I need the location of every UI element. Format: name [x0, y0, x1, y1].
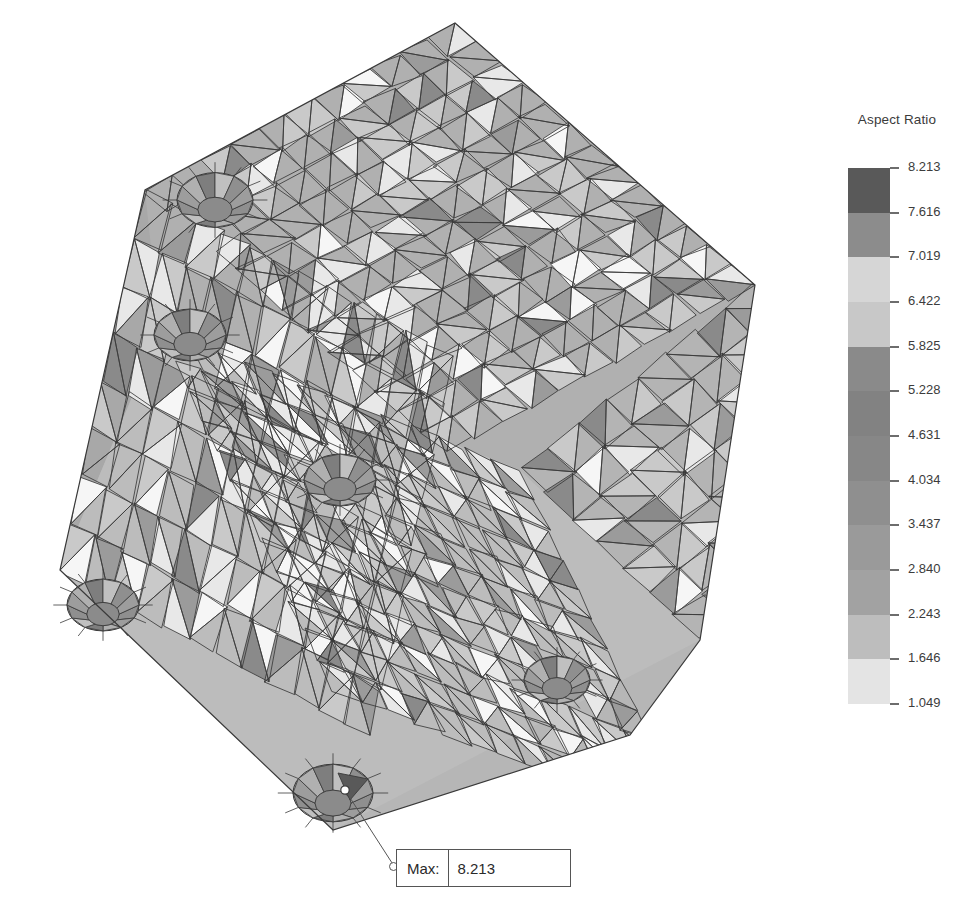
legend-tick-label: 1.646: [908, 650, 941, 665]
mesh-element: [607, 751, 649, 789]
tick-mark-icon: [890, 212, 899, 214]
mesh-element: [775, 333, 807, 379]
mesh-element: [636, 761, 664, 786]
model-viewport[interactable]: [0, 0, 820, 923]
hole-inner-rim: [542, 678, 572, 699]
legend-band-6: [848, 436, 890, 481]
tick-mark-icon: [890, 256, 899, 258]
mesh-element: [569, 758, 612, 798]
mesh-element: [624, 777, 664, 818]
mesh-element: [796, 454, 820, 476]
tick-mark-icon: [890, 658, 899, 660]
mesh-element: [751, 310, 782, 359]
tick-mark-icon: [890, 614, 899, 616]
legend-tick-label: 4.631: [908, 427, 941, 442]
mesh-element: [765, 548, 819, 573]
legend-band-1: [848, 213, 890, 258]
tick-mark-icon: [890, 435, 899, 437]
mesh-element: [569, 758, 612, 798]
mesh-element: [772, 381, 820, 404]
max-value-callout[interactable]: Max: 8.213: [396, 849, 571, 887]
mesh-element: [730, 571, 760, 615]
finite-element-mesh: [53, 22, 820, 866]
mesh-plot-page: Max: 8.213 Aspect Ratio 8.2137.6167.0196…: [0, 0, 974, 923]
legend-tick-label: 7.019: [908, 248, 941, 263]
tick-mark-icon: [890, 480, 899, 482]
legend-band-2: [848, 257, 890, 302]
mesh-element: [764, 477, 820, 501]
callout-value: 8.213: [449, 850, 570, 886]
legend-band-4: [848, 347, 890, 392]
tick-mark-icon: [890, 524, 899, 526]
legend-tick-label: 8.213: [908, 159, 941, 174]
mesh-element: [738, 522, 791, 546]
hole-transition-edge: [60, 618, 72, 623]
color-legend[interactable]: Aspect Ratio 8.2137.6167.0196.4225.8255.…: [820, 0, 974, 923]
mesh-element: [733, 569, 789, 594]
legend-tick-label: 3.437: [908, 516, 941, 531]
max-marker-icon: [341, 786, 349, 794]
legend-band-10: [848, 615, 890, 660]
mesh-element: [796, 427, 820, 478]
hole-transition-edge: [60, 587, 72, 592]
legend-band-8: [848, 525, 890, 570]
legend-band-5: [848, 391, 890, 436]
tick-mark-icon: [890, 390, 899, 392]
tick-mark-icon: [890, 301, 899, 303]
mesh-element: [765, 522, 819, 549]
mesh-element: [624, 777, 664, 818]
mesh-element: [804, 381, 820, 404]
legend-tick-label: 7.616: [908, 204, 941, 219]
legend-tick-label: 5.228: [908, 382, 941, 397]
hole-inner-rim: [324, 477, 356, 500]
legend-tick-label: 2.243: [908, 606, 941, 621]
legend-colorbar[interactable]: [848, 168, 890, 704]
legend-tick-label: 6.422: [908, 293, 941, 308]
legend-tick-group: 8.2137.6167.0196.4225.8255.2284.6314.034…: [820, 0, 974, 923]
mesh-element: [593, 767, 636, 808]
tick-mark-icon: [890, 569, 899, 571]
legend-band-3: [848, 302, 890, 347]
tick-mark-icon: [890, 346, 899, 348]
mesh-element: [708, 543, 763, 569]
hole-transition-edge: [78, 627, 85, 636]
legend-tick-label: 5.825: [908, 338, 941, 353]
hole-transition-edge: [285, 807, 298, 813]
mesh-model[interactable]: [0, 0, 820, 923]
mesh-element: [803, 333, 820, 379]
tick-mark-icon: [890, 167, 899, 169]
callout-label: Max:: [397, 850, 449, 886]
legend-band-9: [848, 570, 890, 615]
mesh-element: [792, 502, 820, 527]
hole-inner-rim: [174, 332, 206, 355]
mesh-element: [766, 450, 795, 497]
legend-title: Aspect Ratio: [820, 112, 974, 127]
legend-tick-label: 1.049: [908, 695, 941, 710]
hole-inner-rim: [198, 197, 232, 222]
legend-band-0: [848, 168, 890, 213]
legend-band-11: [848, 659, 890, 704]
mesh-element: [623, 730, 666, 772]
legend-tick-label: 4.034: [908, 472, 941, 487]
legend-tick-label: 2.840: [908, 561, 941, 576]
mesh-element: [607, 751, 649, 789]
tick-mark-icon: [890, 703, 899, 705]
hole-transition-edge: [305, 818, 313, 828]
legend-band-7: [848, 481, 890, 526]
mesh-element: [767, 427, 797, 478]
